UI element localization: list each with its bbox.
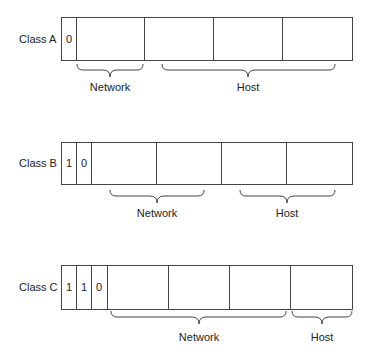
ip-address-classes-diagram: Class A 0 Network Host Class B 1 0 Netwo… [0, 0, 368, 356]
class-c-bit-1: 1 [66, 281, 72, 293]
class-c-network-label: Network [179, 331, 220, 343]
class-a-label: Class A [19, 33, 57, 45]
class-b-network-brace [110, 190, 204, 203]
class-c-row [62, 266, 353, 325]
class-b-network-label: Network [137, 207, 178, 219]
class-c-bit-3: 0 [96, 281, 102, 293]
class-b-box [62, 143, 353, 185]
class-b-row [62, 143, 353, 204]
class-a-network-brace [77, 64, 143, 77]
class-c-label: Class C [19, 281, 58, 293]
class-a-host-label: Host [237, 81, 260, 93]
class-a-box [62, 18, 353, 61]
class-c-host-brace [292, 311, 352, 324]
class-a-row [62, 18, 353, 78]
class-a-host-brace [162, 64, 335, 77]
class-b-bit-2: 0 [81, 157, 87, 169]
class-a-network-label: Network [90, 81, 131, 93]
class-a-bit-1: 0 [66, 33, 72, 45]
class-b-label: Class B [19, 157, 57, 169]
class-c-network-brace [111, 311, 286, 324]
class-b-host-label: Host [276, 207, 299, 219]
class-b-host-brace [240, 190, 335, 203]
class-b-bit-1: 1 [66, 157, 72, 169]
class-c-bit-2: 1 [81, 281, 87, 293]
class-c-host-label: Host [311, 331, 334, 343]
class-c-box [62, 266, 353, 310]
